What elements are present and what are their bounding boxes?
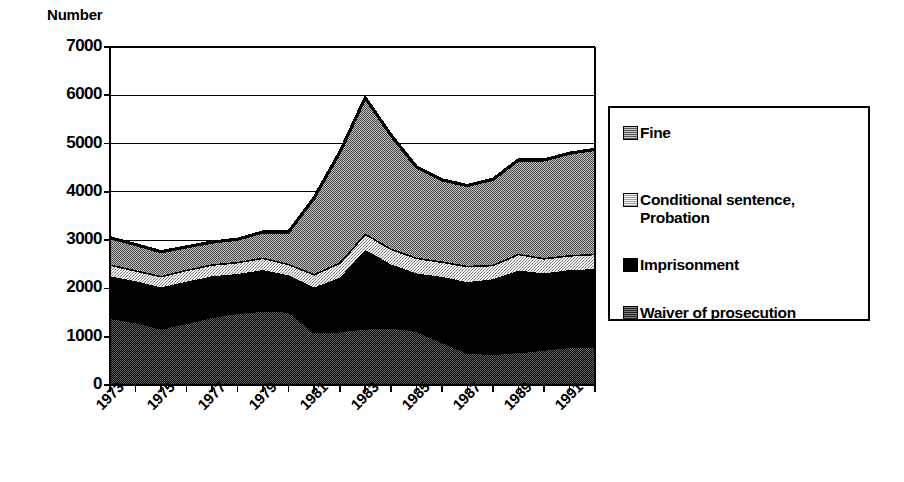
y-tick-label: 0 xyxy=(32,374,102,394)
legend-item-label: Fine xyxy=(640,124,671,142)
waiver-swatch-icon xyxy=(623,306,638,320)
y-tick-label: 5000 xyxy=(32,133,102,153)
legend-item-waiver[interactable]: Waiver of prosecution xyxy=(623,304,796,322)
y-tick-label: 4000 xyxy=(32,181,102,201)
y-tick-label: 7000 xyxy=(32,36,102,56)
y-tick-label: 2000 xyxy=(32,277,102,297)
chart-legend: FineConditional sentence, ProbationImpri… xyxy=(608,106,870,321)
legend-item-label: Imprisonment xyxy=(640,256,739,274)
legend-item-imprisonment[interactable]: Imprisonment xyxy=(623,256,739,274)
y-tick-label: 6000 xyxy=(32,84,102,104)
y-tick-label: 1000 xyxy=(32,326,102,346)
legend-item-label: Waiver of prosecution xyxy=(640,304,796,322)
legend-item-label: Conditional sentence, Probation xyxy=(640,191,795,227)
legend-item-fine[interactable]: Fine xyxy=(623,124,671,142)
chart-root: Number xyxy=(0,0,904,482)
imprisonment-swatch-icon xyxy=(623,258,638,272)
area-series-group xyxy=(110,98,595,385)
conditional-swatch-icon xyxy=(623,193,638,207)
legend-item-conditional[interactable]: Conditional sentence, Probation xyxy=(623,191,795,227)
y-tick-label: 3000 xyxy=(32,229,102,249)
fine-swatch-icon xyxy=(623,126,638,140)
